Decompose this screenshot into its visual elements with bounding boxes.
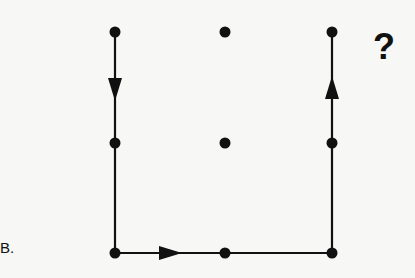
dot-middle-right <box>327 138 338 149</box>
arrow-down-icon <box>108 78 122 101</box>
dot-middle-left <box>110 138 121 149</box>
grid-dots <box>110 27 338 259</box>
arrow-right-icon <box>159 246 182 260</box>
question-mark-icon: ? <box>373 26 395 68</box>
arrowheads <box>108 76 339 260</box>
option-label: B. <box>0 239 14 256</box>
dot-bottom-left <box>110 248 121 259</box>
dot-bottom-middle <box>220 248 231 259</box>
dot-top-middle <box>220 27 231 38</box>
arrow-up-icon <box>325 76 339 99</box>
dot-top-right <box>327 27 338 38</box>
dot-center <box>220 138 231 149</box>
dot-bottom-right <box>327 248 338 259</box>
path-diagram <box>0 0 415 278</box>
dot-top-left <box>110 27 121 38</box>
